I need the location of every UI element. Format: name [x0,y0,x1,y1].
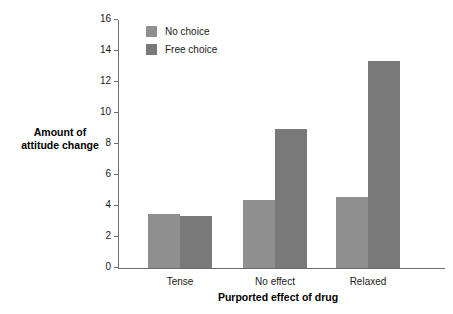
y-axis-tick-label: 4 [105,199,111,211]
legend-swatch-icon [146,26,157,37]
x-axis-title: Purported effect of drug [118,291,438,303]
y-axis-tick-label: 6 [105,168,111,180]
y-axis-tick-label: 14 [100,44,111,56]
bar [336,197,368,268]
y-axis-title: Amount of attitude change [8,126,112,152]
y-axis-title-line-2: attitude change [8,139,112,152]
bar [368,61,400,268]
y-axis-tick-label: 16 [100,13,111,25]
legend-swatch-icon [146,44,157,55]
y-axis-tick-label: 2 [105,230,111,242]
y-axis-tick-label: 0 [105,261,111,273]
legend-item: No choice [146,24,217,39]
chart-legend: No choiceFree choice [146,24,217,60]
x-axis-category-label: Relaxed [308,276,428,287]
y-axis-tick-label: 10 [100,106,111,118]
legend-label: No choice [165,26,209,37]
x-axis-line [118,268,445,269]
bar-chart-figure: 1614121086420 TenseNo effectRelaxed Amou… [0,0,453,314]
y-axis-tick-label: 12 [100,75,111,87]
bar [275,129,307,269]
bar [243,200,275,268]
bar [180,216,212,268]
legend-label: Free choice [165,44,217,55]
bar [148,214,180,268]
y-axis-title-line-1: Amount of [8,126,112,139]
legend-item: Free choice [146,42,217,57]
